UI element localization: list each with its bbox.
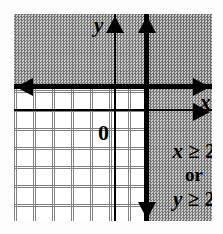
- inequality-connector: or: [154, 164, 212, 187]
- inequality-x: x ≥ 2: [154, 139, 212, 164]
- inequality-y-variable: y: [173, 187, 182, 211]
- x-axis-label: x: [200, 92, 211, 113]
- boundary-line-x-equals-2: [144, 14, 149, 221]
- x-axis-line: [14, 109, 212, 111]
- boundary-line-y-equals-2: [14, 84, 212, 89]
- y-axis-arrow-up-icon: [106, 16, 124, 33]
- arrow-down-icon: [138, 202, 156, 219]
- inequality-y-value: 2: [204, 187, 212, 211]
- inequality-x-variable: x: [172, 139, 183, 163]
- inequality-x-value: 2: [205, 139, 212, 163]
- inequality-y-relation: ≥: [188, 187, 200, 211]
- origin-label: 0: [98, 122, 109, 144]
- inequality-graph-figure: y x 0 x ≥ 2 or y ≥ 2: [0, 0, 223, 234]
- arrow-left-icon: [16, 78, 33, 96]
- inequality-y: y ≥ 2: [154, 187, 212, 212]
- arrow-up-icon: [138, 16, 156, 33]
- y-axis-label: y: [94, 15, 103, 36]
- y-axis-line: [114, 14, 116, 221]
- inequality-x-relation: ≥: [188, 139, 200, 163]
- inequality-annotations: x ≥ 2 or y ≥ 2: [154, 139, 212, 211]
- coordinate-plane: y x 0 x ≥ 2 or y ≥ 2: [14, 14, 212, 221]
